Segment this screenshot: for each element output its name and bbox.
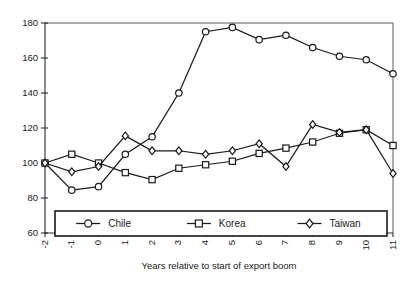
square-marker-icon [176, 165, 182, 171]
x-tick-label: 8 [306, 240, 317, 245]
square-marker-icon [283, 145, 289, 151]
x-tick-label: -2 [39, 240, 50, 248]
circle-marker-icon [229, 24, 235, 30]
x-tick-label: 5 [226, 240, 237, 245]
circle-marker-icon [336, 53, 342, 59]
y-tick-label: 60 [27, 227, 38, 238]
y-tick-label: 120 [22, 122, 38, 133]
square-marker-icon [310, 139, 316, 145]
x-tick-label: 9 [333, 240, 344, 245]
line-chart-svg: 6080100120140160180 -2-101234567891011 C… [0, 0, 413, 282]
series-line-korea [45, 130, 393, 180]
diamond-marker-icon [202, 150, 208, 158]
series-taiwan [42, 121, 396, 178]
circle-marker-icon [256, 36, 262, 42]
diamond-marker-icon [176, 147, 182, 155]
circle-marker-icon [69, 187, 75, 193]
x-tick-label: 4 [199, 240, 210, 245]
circle-marker-icon [363, 57, 369, 63]
series-korea [42, 127, 396, 183]
data-series-layer [42, 24, 396, 193]
y-tick-label: 160 [22, 52, 38, 63]
diamond-marker-icon [149, 147, 155, 155]
x-tick-label: 3 [172, 240, 183, 245]
circle-marker-icon [390, 71, 396, 77]
y-tick-label: 180 [22, 17, 38, 28]
legend-label: Korea [219, 218, 246, 229]
y-tick-label: 80 [27, 192, 38, 203]
x-tick-label: 11 [387, 240, 398, 250]
x-axis-title: Years relative to start of export boom [142, 260, 297, 271]
circle-marker-icon [176, 90, 182, 96]
square-marker-icon [256, 150, 262, 156]
legend-label: Chile [108, 218, 131, 229]
square-marker-icon [149, 177, 155, 183]
circle-marker-icon [202, 29, 208, 35]
diamond-marker-icon [69, 168, 75, 176]
x-tick-label: 2 [146, 240, 157, 245]
circle-marker-icon [95, 183, 101, 189]
diamond-marker-icon [229, 147, 235, 155]
circle-marker-icon [122, 151, 128, 157]
chart-figure: 6080100120140160180 -2-101234567891011 C… [0, 0, 413, 282]
legend-label: Taiwan [330, 218, 361, 229]
circle-marker-icon [85, 220, 92, 227]
square-marker-icon [203, 162, 209, 168]
circle-marker-icon [309, 44, 315, 50]
series-chile [42, 24, 396, 193]
y-tick-label: 100 [22, 157, 38, 168]
chart-legend: ChileKoreaTaiwan [55, 211, 387, 236]
square-marker-icon [390, 142, 396, 148]
y-tick-label: 140 [22, 87, 38, 98]
x-tick-label: 6 [253, 240, 264, 245]
x-tick-label: -1 [65, 240, 76, 248]
circle-marker-icon [149, 134, 155, 140]
x-tick-label: 0 [92, 240, 103, 245]
x-tick-label: 7 [279, 240, 290, 245]
square-marker-icon [122, 170, 128, 176]
square-marker-icon [229, 158, 235, 164]
x-tick-label: 10 [360, 240, 371, 251]
circle-marker-icon [283, 32, 289, 38]
square-marker-icon [69, 151, 75, 157]
square-marker-icon [195, 220, 202, 227]
y-axis-ticks: 6080100120140160180 [22, 17, 48, 238]
x-tick-label: 1 [119, 240, 130, 245]
